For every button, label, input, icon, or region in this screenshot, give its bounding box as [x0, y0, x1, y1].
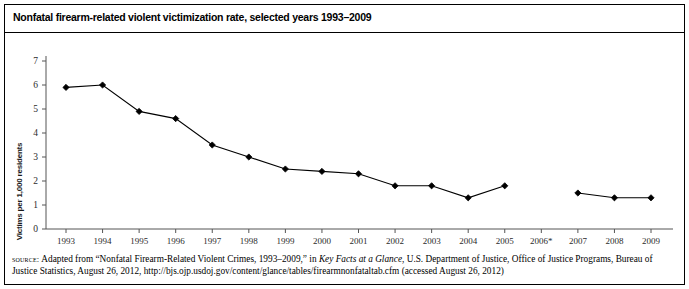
y-axis-tick-label: 3	[33, 152, 38, 162]
line-chart-svg: 0123456719931994199519961997199819992000…	[0, 33, 689, 248]
x-axis-tick-label: 2003	[423, 236, 442, 246]
y-axis-tick-label: 6	[33, 80, 38, 90]
source-publication-title: Key Facts at a Glance	[319, 254, 402, 264]
y-axis-tick-label: 5	[33, 104, 38, 114]
data-point-marker	[429, 183, 435, 189]
y-axis-tick-label: 1	[33, 200, 38, 210]
title-bar: Nonfatal firearm-related violent victimi…	[4, 4, 685, 33]
y-axis-tick-label: 2	[33, 176, 38, 186]
figure-container: Nonfatal firearm-related violent victimi…	[0, 0, 689, 289]
data-point-marker	[502, 183, 508, 189]
data-point-marker	[611, 195, 617, 201]
source-label: source:	[12, 254, 39, 264]
x-axis-tick-label: 2002	[386, 236, 404, 246]
y-axis-tick-label: 7	[33, 56, 38, 66]
x-axis-tick-label: 2005	[496, 236, 515, 246]
data-point-marker	[465, 195, 471, 201]
chart-plot-area: Victims per 1,000 residents 012345671993…	[0, 33, 689, 248]
source-note: source: Adapted from “Nonfatal Firearm-R…	[12, 253, 674, 277]
data-point-marker	[575, 190, 581, 196]
x-axis-tick-label: 1993	[57, 236, 76, 246]
y-axis-tick-label: 4	[33, 128, 38, 138]
x-axis-tick-label: 2004	[459, 236, 478, 246]
x-axis-tick-label: 2007	[569, 236, 588, 246]
data-point-marker	[246, 154, 252, 160]
x-axis-tick-label: 1999	[276, 236, 295, 246]
data-line-segment	[66, 85, 505, 198]
x-axis-tick-label: 2008	[605, 236, 624, 246]
data-point-marker	[355, 171, 361, 177]
x-axis-tick-label: 1994	[94, 236, 113, 246]
x-axis-tick-label: 2006*	[530, 236, 553, 246]
x-axis-tick-label: 1997	[203, 236, 222, 246]
x-axis-tick-label: 2001	[350, 236, 368, 246]
x-axis-tick-label: 2000	[313, 236, 332, 246]
x-axis-tick-label: 1998	[240, 236, 259, 246]
x-axis-tick-label: 2009	[642, 236, 661, 246]
data-point-marker	[282, 166, 288, 172]
y-axis-title: Victims per 1,000 residents	[15, 132, 24, 252]
x-axis-tick-label: 1995	[130, 236, 149, 246]
data-point-marker	[319, 168, 325, 174]
data-point-marker	[63, 84, 69, 90]
figure-title: Nonfatal firearm-related violent victimi…	[13, 11, 371, 23]
x-axis-tick-label: 1996	[167, 236, 186, 246]
data-point-marker	[392, 183, 398, 189]
data-point-marker	[648, 195, 654, 201]
source-text-1: Adapted from “Nonfatal Firearm-Related V…	[39, 254, 318, 264]
y-axis-tick-label: 0	[33, 224, 38, 234]
